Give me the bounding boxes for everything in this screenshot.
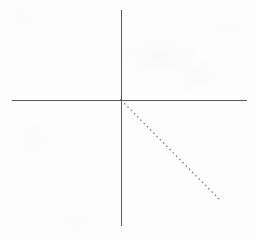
plot-canvas — [0, 0, 256, 240]
axes-group — [12, 10, 247, 226]
series-group — [121, 100, 221, 201]
origin-marker — [120, 99, 122, 101]
dashed-ray-line — [121, 100, 221, 201]
coordinate-diagram — [0, 0, 256, 240]
